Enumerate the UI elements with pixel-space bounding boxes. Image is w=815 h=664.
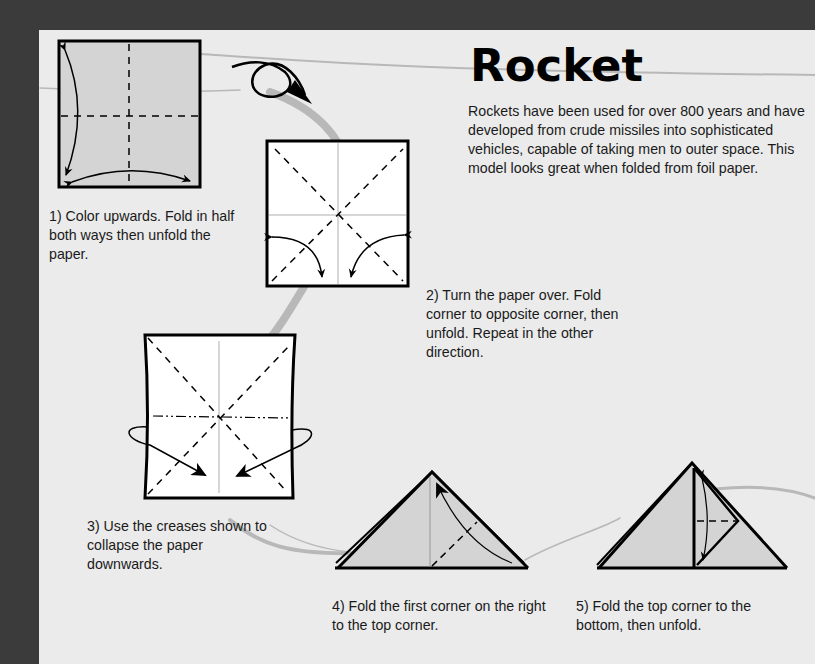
step-5-diagram [597, 463, 787, 569]
step-3-diagram [129, 335, 311, 498]
step-4-diagram [335, 472, 528, 568]
step-2-diagram [267, 141, 408, 286]
step-2-caption: 2) Turn the paper over. Fold corner to o… [426, 286, 626, 362]
step-3-caption: 3) Use the creases shown to collapse the… [87, 517, 277, 574]
step-4-caption: 4) Fold the first corner on the right to… [332, 597, 552, 635]
step-1-caption: 1) Color upwards. Fold in half both ways… [49, 207, 239, 264]
turn-over-arrow-icon [232, 62, 312, 104]
page-title: Rocket [470, 43, 643, 88]
step-5-caption: 5) Fold the top corner to the bottom, th… [576, 597, 796, 635]
step-1-diagram [59, 41, 200, 187]
intro-paragraph: Rockets have been used for over 800 year… [468, 102, 813, 178]
